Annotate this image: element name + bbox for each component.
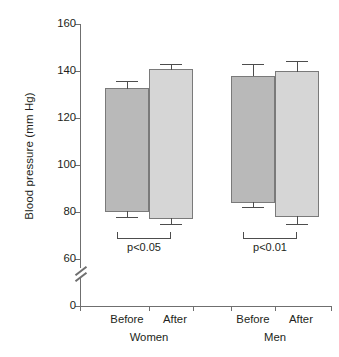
y-axis-title: Blood pressure (mm Hg) — [23, 51, 35, 261]
x-axis-line — [80, 306, 332, 307]
y-tick-label-160: 160 — [34, 17, 76, 29]
error-stem-men-after-top — [297, 61, 298, 72]
error-cap-women-before-bottom — [116, 217, 138, 218]
y-tick-label-0: 0 — [34, 299, 76, 311]
error-stem-men-before-top — [253, 64, 254, 76]
error-cap-women-before-top — [116, 81, 138, 82]
bar-women-after — [149, 69, 193, 219]
y-axis-line-lower — [80, 278, 81, 306]
error-cap-men-before-top — [242, 64, 264, 65]
y-tick-label-140: 140 — [34, 64, 76, 76]
error-cap-women-after-top — [160, 64, 182, 65]
group-label-women: Women — [89, 331, 209, 343]
error-cap-women-after-bottom — [160, 224, 182, 225]
x-tick-men-divider — [275, 306, 276, 311]
bar-men-after — [275, 71, 319, 217]
x-tick-women-divider — [149, 306, 150, 311]
bar-men-before — [231, 76, 275, 203]
y-tick-label-60: 60 — [34, 252, 76, 264]
y-tick-label-80: 80 — [34, 205, 76, 217]
bar-women-before — [105, 88, 149, 212]
significance-bracket-women — [117, 232, 171, 239]
group-label-men: Men — [215, 331, 335, 343]
blood-pressure-bar-chart: Blood pressure (mm Hg) 160 140 120 100 8… — [0, 0, 339, 357]
error-cap-men-after-top — [286, 61, 308, 62]
y-axis-line-upper — [80, 24, 81, 268]
significance-bracket-men — [243, 232, 297, 239]
error-stem-men-after-bottom — [297, 216, 298, 224]
x-tick-women-end — [193, 306, 194, 311]
x-tick-start — [80, 306, 81, 311]
significance-label-men: p<0.01 — [238, 241, 302, 253]
x-label-men-after: After — [269, 313, 333, 325]
x-label-women-after: After — [143, 313, 207, 325]
error-cap-men-before-bottom — [242, 207, 264, 208]
y-tick-label-100: 100 — [34, 158, 76, 170]
x-tick-end — [331, 306, 332, 311]
error-cap-men-after-bottom — [286, 224, 308, 225]
y-tick-label-120: 120 — [34, 111, 76, 123]
x-tick-men-start — [231, 306, 232, 311]
significance-label-women: p<0.05 — [112, 241, 176, 253]
